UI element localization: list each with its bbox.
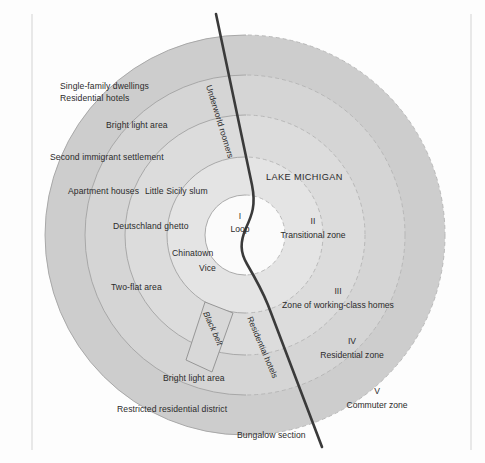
label-vice: Vice [199,263,216,273]
zone-1-numeral: I [239,211,241,221]
zone-3-numeral: III [334,286,341,296]
zone-5-numeral: V [374,386,380,396]
label-deutschland-ghetto: Deutschland ghetto [113,221,189,231]
label-bright-light-area-upper: Bright light area [106,120,168,130]
label-second-immigrant-settlement: Second immigrant settlement [50,152,164,162]
label-residential-hotels-upper: Residential hotels [60,93,129,103]
concentric-zone-diagram: Single-family dwellings Residential hote… [0,0,485,463]
zone-1-name: Loop [230,224,249,234]
label-single-family-dwellings: Single-family dwellings [60,81,149,91]
label-bungalow-section: Bungalow section [237,430,306,440]
label-apartment-houses: Apartment houses [68,186,139,196]
zone-4-numeral: IV [348,336,356,346]
label-restricted-residential-district: Restricted residential district [117,404,228,414]
zone-3-name: Zone of working-class homes [282,300,394,310]
zone-5-name: Commuter zone [346,400,407,410]
zone-4-name: Residential zone [320,350,384,360]
zone-2-numeral: II [311,216,316,226]
label-two-flat-area: Two-flat area [111,282,162,292]
label-bright-light-area-lower: Bright light area [163,373,225,383]
label-lake-michigan: LAKE MICHIGAN [266,172,343,182]
zone-2-name: Transitional zone [280,230,345,240]
label-chinatown: Chinatown [172,248,214,258]
label-little-sicily-slum: Little Sicily slum [145,186,208,196]
